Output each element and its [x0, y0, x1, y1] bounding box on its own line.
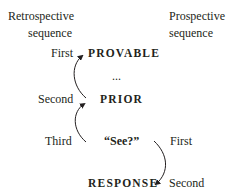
arrows — [0, 0, 234, 196]
arrow-third-to-second — [75, 104, 86, 142]
arrow-see-to-response — [154, 141, 166, 184]
arrow-second-to-first — [74, 56, 86, 98]
